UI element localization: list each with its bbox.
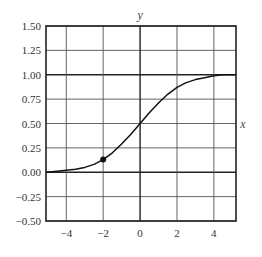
y-tick-label: 1.00 [22,69,42,81]
x-axis-label: x [239,117,246,131]
x-tick-label: −4 [60,227,72,239]
x-tick-label: −2 [97,227,109,239]
chart: −0.50−0.250.000.250.500.751.001.251.50−4… [0,0,262,257]
y-tick-label: 0.75 [22,93,42,105]
highlighted-point [100,157,106,163]
y-tick-label: 0.25 [22,142,42,154]
y-tick-label: −0.50 [16,215,42,227]
y-tick-label: 1.50 [22,20,42,32]
x-tick-label: 4 [211,227,217,239]
y-tick-label: 0.50 [22,118,42,130]
y-tick-label: −0.25 [16,191,42,203]
x-tick-label: 0 [137,227,143,239]
y-axis-label: y [136,8,143,22]
y-tick-label: 0.00 [22,166,42,178]
y-tick-label: 1.25 [22,44,42,56]
x-tick-label: 2 [174,227,180,239]
